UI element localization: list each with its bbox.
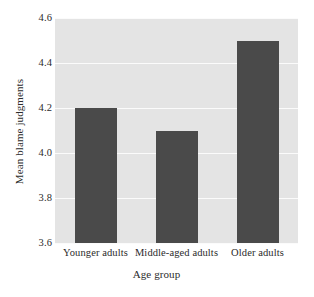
x-axis-tick-label: Older adults [188,246,314,259]
y-axis-tick-label: 4.6 [22,13,52,23]
y-axis-tick-label: 3.8 [22,193,52,203]
y-axis-tick-label: 4.2 [22,103,52,113]
bar [75,108,117,243]
bar-chart-figure: Mean blame judgments 4.64.44.24.03.83.6 … [0,0,313,297]
y-axis-tick-label: 4.4 [22,58,52,68]
gridline [55,243,298,244]
plot-area [55,18,298,243]
x-axis-title: Age group [0,267,313,281]
bar [237,41,279,244]
y-axis-title: Mean blame judgments [10,14,28,249]
gridline [55,18,298,19]
bar [156,131,198,244]
y-axis-tick-label: 4.0 [22,148,52,158]
